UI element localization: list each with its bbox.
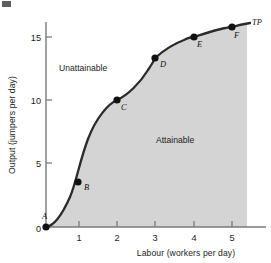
data-point-label-e: E: [196, 40, 202, 49]
data-point-d: [151, 54, 158, 61]
data-point-label-c: C: [121, 103, 127, 112]
attainable-region-shading: [46, 23, 247, 227]
y-tick-label-5: 5: [36, 159, 41, 169]
x-axis-title: Labour (workers per day): [137, 248, 235, 258]
data-point-b: [74, 178, 81, 185]
y-tick-label-15: 15: [31, 33, 41, 43]
attainable-region-label: Attainable: [156, 135, 194, 145]
y-tick-label-0: 0: [36, 224, 41, 234]
total-product-chart: 15 10 5 0 1 2 3 4 5 Output (jumpers per …: [0, 0, 271, 263]
data-point-label-a: A: [41, 212, 48, 221]
curve-label-tp: TP: [252, 18, 262, 27]
x-tick-label-3: 3: [152, 233, 157, 243]
data-point-label-b: B: [84, 183, 89, 192]
data-point-label-d: D: [159, 60, 166, 69]
data-point-c: [113, 96, 120, 103]
unattainable-region-label: Unattainable: [59, 63, 107, 73]
y-axis-ticks: [46, 37, 52, 163]
x-tick-label-1: 1: [76, 233, 81, 243]
data-point-f: [228, 23, 235, 30]
x-tick-label-4: 4: [191, 233, 196, 243]
data-point-label-f: F: [233, 31, 240, 40]
y-axis-title: Output (jumpers per day): [7, 76, 17, 174]
x-tick-label-2: 2: [114, 233, 119, 243]
data-point-a: [42, 223, 49, 230]
x-tick-label-5: 5: [229, 233, 234, 243]
y-tick-label-10: 10: [31, 96, 41, 106]
figure-container: 15 10 5 0 1 2 3 4 5 Output (jumpers per …: [0, 0, 271, 263]
